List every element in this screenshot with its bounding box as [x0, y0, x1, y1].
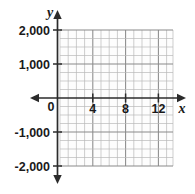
- x-tick-label-12: 12: [151, 102, 165, 116]
- y-tick-label-1000: 1,000: [19, 58, 50, 72]
- coordinate-plane-svg: 2,000 1,000 -1,000 -2,000 0 4 8 12 y x: [0, 0, 195, 194]
- y-tick-label-neg1000: -1,000: [15, 126, 50, 140]
- y-tick-label-neg2000: -2,000: [15, 160, 50, 174]
- y-tick-label-2000: 2,000: [19, 24, 50, 38]
- origin-label: 0: [48, 100, 55, 114]
- y-axis-arrow-down: [53, 175, 61, 184]
- coordinate-grid-figure: 2,000 1,000 -1,000 -2,000 0 4 8 12 y x: [0, 0, 195, 194]
- y-axis-name: y: [45, 5, 54, 20]
- y-axis-arrow-up: [53, 10, 61, 19]
- x-tick-label-4: 4: [89, 102, 96, 116]
- x-tick-label-8: 8: [122, 102, 129, 116]
- x-axis-name: x: [178, 101, 186, 116]
- x-axis-arrow-left: [30, 94, 39, 102]
